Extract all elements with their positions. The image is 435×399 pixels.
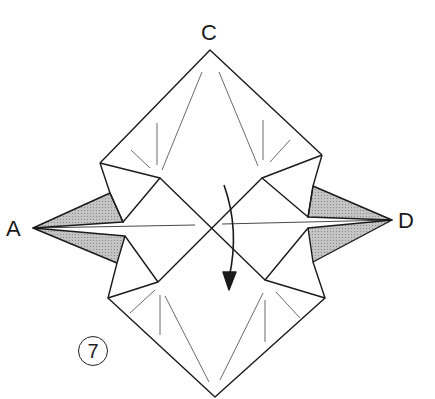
label-c: C (201, 20, 217, 46)
label-a: A (6, 216, 21, 242)
fold-arrow (224, 185, 233, 278)
flap-a-upper (33, 193, 123, 228)
label-d: D (398, 208, 414, 234)
step-number-badge: 7 (78, 336, 108, 366)
flap-d-lower (308, 220, 392, 262)
origami-diagram (0, 0, 435, 399)
flap-d-upper (308, 186, 392, 220)
flap-a-lower (33, 228, 125, 263)
